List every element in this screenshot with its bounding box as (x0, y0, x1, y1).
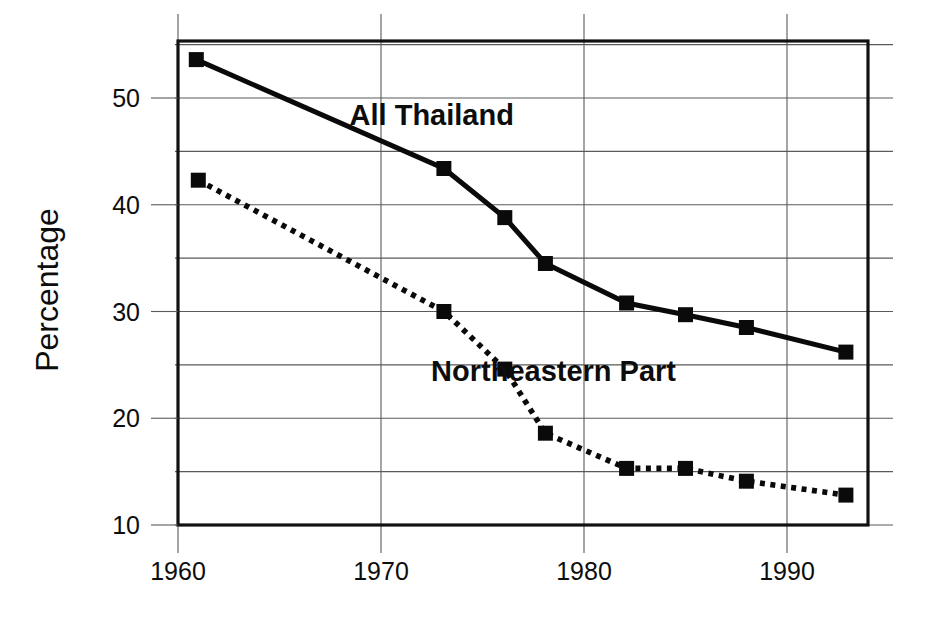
x-tick-label: 1990 (759, 557, 815, 585)
data-point-marker (739, 320, 754, 335)
data-point-marker (739, 474, 754, 489)
data-point-marker (191, 173, 206, 188)
x-tick-label: 1960 (150, 557, 206, 585)
y-tick-label: 30 (112, 298, 140, 326)
x-tick-label: 1980 (556, 557, 612, 585)
data-point-marker (538, 426, 553, 441)
x-tick-label: 1970 (353, 557, 409, 585)
data-point-marker (619, 461, 634, 476)
data-point-marker (838, 345, 853, 360)
chart-background (0, 0, 936, 629)
data-point-marker (497, 210, 512, 225)
data-point-marker (538, 256, 553, 271)
line-chart: 1020304050 1960197019801990 All Thailand… (0, 0, 936, 629)
data-point-marker (436, 161, 451, 176)
data-point-marker (678, 461, 693, 476)
data-point-marker (619, 296, 634, 311)
data-point-marker (678, 307, 693, 322)
y-tick-label: 40 (112, 191, 140, 219)
y-tick-label: 10 (112, 511, 140, 539)
series-annotation-1: All Thailand (350, 99, 514, 131)
data-point-marker (838, 488, 853, 503)
data-point-marker (189, 52, 204, 67)
y-tick-label: 50 (112, 84, 140, 112)
y-tick-label: 20 (112, 404, 140, 432)
data-point-marker (436, 304, 451, 319)
y-axis-title-text: Percentage (29, 208, 65, 372)
series-annotation-2: Northeastern Part (431, 355, 676, 387)
y-axis-title: Percentage (29, 208, 65, 372)
chart-canvas: 1020304050 1960197019801990 All Thailand… (0, 0, 936, 629)
